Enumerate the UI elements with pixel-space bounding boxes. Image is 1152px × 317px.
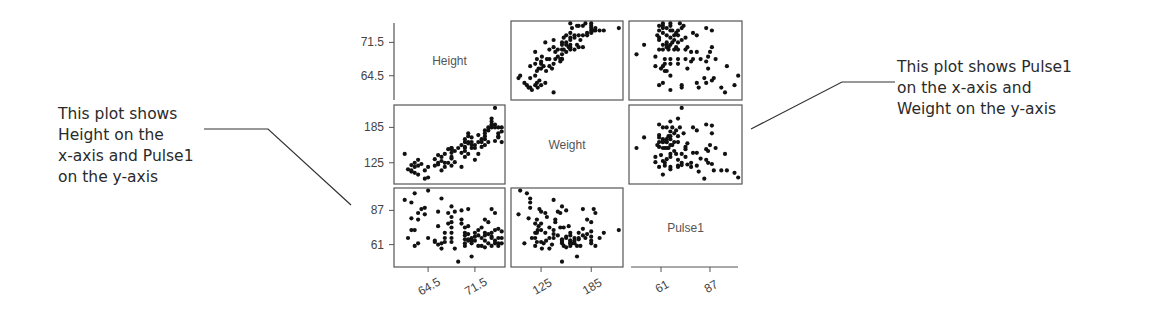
- data-point: [500, 229, 504, 233]
- data-point: [459, 208, 463, 212]
- data-point: [642, 135, 646, 139]
- data-point: [714, 57, 718, 61]
- data-point: [699, 157, 703, 161]
- data-point: [449, 146, 453, 150]
- data-point: [433, 157, 437, 161]
- data-point: [500, 140, 504, 144]
- data-point: [528, 196, 532, 200]
- diagonal-label-pulse1: Pulse1: [667, 221, 704, 235]
- data-point: [544, 69, 548, 73]
- data-point: [552, 228, 556, 232]
- data-point: [466, 152, 470, 156]
- data-point: [480, 236, 484, 240]
- data-point: [661, 125, 665, 129]
- annotation-left-text: This plot shows Height on the x-axis and…: [58, 104, 194, 188]
- data-point: [695, 164, 699, 168]
- data-point: [657, 165, 661, 169]
- data-point: [593, 244, 597, 248]
- data-point: [533, 74, 537, 78]
- data-point: [547, 247, 551, 251]
- data-point: [525, 191, 529, 195]
- data-point: [449, 155, 453, 159]
- diagonal-label-height: Height: [432, 54, 467, 68]
- data-point: [527, 86, 531, 90]
- data-point: [550, 243, 554, 247]
- data-point: [453, 247, 457, 251]
- data-point: [683, 145, 687, 149]
- data-point: [702, 177, 706, 181]
- data-point: [572, 33, 576, 37]
- data-point: [657, 83, 661, 87]
- data-point: [668, 36, 672, 40]
- data-point: [564, 33, 568, 37]
- data-point: [470, 254, 474, 258]
- data-point: [470, 140, 474, 144]
- data-point: [691, 31, 695, 35]
- data-point: [446, 161, 450, 165]
- data-point: [593, 26, 597, 30]
- data-point: [719, 86, 723, 90]
- data-point: [575, 24, 579, 28]
- data-point: [683, 57, 687, 61]
- data-point: [598, 236, 602, 240]
- data-point: [672, 38, 676, 42]
- data-point: [702, 76, 706, 80]
- data-point: [409, 200, 413, 204]
- data-point: [583, 236, 587, 240]
- data-point: [528, 76, 532, 80]
- data-point: [443, 240, 447, 244]
- data-point: [710, 162, 714, 166]
- data-point: [665, 69, 669, 73]
- data-point: [593, 211, 597, 215]
- data-point: [680, 163, 684, 167]
- data-point: [710, 45, 714, 49]
- data-point: [533, 236, 537, 240]
- data-point: [473, 158, 477, 162]
- data-point: [676, 117, 680, 121]
- data-point: [665, 146, 669, 150]
- data-point: [634, 146, 638, 150]
- data-point: [443, 231, 447, 235]
- data-point: [486, 140, 490, 144]
- data-point: [535, 218, 539, 222]
- data-point: [439, 168, 443, 172]
- data-point: [577, 231, 581, 235]
- data-point: [409, 170, 413, 174]
- data-point: [589, 21, 593, 25]
- data-point: [668, 134, 672, 138]
- data-point: [589, 220, 593, 224]
- data-point: [680, 86, 684, 90]
- data-point: [668, 165, 672, 169]
- data-point: [680, 152, 684, 156]
- data-point: [539, 83, 543, 87]
- data-point: [535, 240, 539, 244]
- data-point: [581, 227, 585, 231]
- x-tick-label: 125: [530, 275, 555, 297]
- data-point: [413, 244, 417, 248]
- data-point: [723, 152, 727, 156]
- y-tick-label: 125: [364, 156, 384, 170]
- data-point: [560, 260, 564, 264]
- data-point: [668, 21, 672, 25]
- data-point: [689, 165, 693, 169]
- data-point: [409, 216, 413, 220]
- data-point: [490, 235, 494, 239]
- data-point: [568, 36, 572, 40]
- data-point: [682, 131, 686, 135]
- data-point: [419, 162, 423, 166]
- data-point: [449, 204, 453, 208]
- data-point: [443, 236, 447, 240]
- data-point: [463, 137, 467, 141]
- data-point: [426, 189, 430, 193]
- data-point: [423, 212, 427, 216]
- data-point: [714, 146, 718, 150]
- data-point: [466, 224, 470, 228]
- data-point: [463, 244, 467, 248]
- data-point: [695, 33, 699, 37]
- data-point: [470, 135, 474, 139]
- right-leader-line: [751, 82, 895, 129]
- data-point: [536, 86, 540, 90]
- data-point: [668, 74, 672, 78]
- data-point: [540, 247, 544, 251]
- data-point: [528, 64, 532, 68]
